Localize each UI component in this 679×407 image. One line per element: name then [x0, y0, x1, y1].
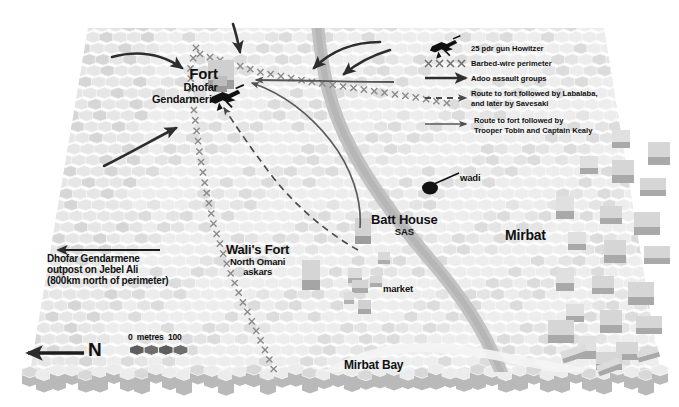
building	[644, 246, 670, 264]
building	[628, 282, 654, 305]
building	[592, 276, 614, 294]
building	[358, 300, 371, 314]
legend-label-tobin-route: Route to fort followed by	[474, 117, 563, 126]
legend-label-labalaba-route: Route to fort followed by Labalaba,	[471, 90, 598, 99]
label-market: market	[383, 284, 413, 294]
building	[344, 292, 354, 304]
building	[612, 160, 634, 183]
hex-terrain	[6, 20, 679, 389]
building	[355, 218, 371, 244]
building	[612, 130, 630, 148]
building	[604, 240, 626, 263]
building	[634, 212, 660, 235]
building	[302, 260, 320, 290]
legend-label-adoo-assault: Adoo assault groups	[471, 75, 547, 84]
label-batt-house: Batt House SAS	[371, 213, 438, 237]
legend-label-barbed-wire: Barbed-wire perimeter	[471, 60, 552, 69]
building	[600, 206, 622, 224]
building	[556, 196, 574, 219]
legend-label-tobin-route-2: Trooper Tobin and Captain Kealy	[474, 127, 592, 136]
label-mirbat-bay: Mirbat Bay	[344, 359, 403, 372]
building	[640, 178, 666, 196]
legend-label-howitzer: 25 pdr gun Howitzer	[471, 45, 544, 54]
label-fort: Fort Dhofar Gendarmerie	[152, 66, 218, 106]
building	[568, 232, 586, 250]
label-walis-fort: Wali's Fort North Omani askars	[226, 243, 289, 278]
compass-north-label: N	[88, 340, 102, 361]
building	[566, 304, 584, 322]
label-mirbat: Mirbat	[505, 228, 546, 243]
label-dhofar-gendarmerie-outpost: Dhofar Gendarmene outpost on Jebel Ali (…	[47, 254, 169, 286]
building	[548, 320, 574, 343]
building	[580, 156, 598, 174]
building	[636, 316, 662, 334]
building	[378, 252, 390, 264]
building	[370, 276, 382, 287]
building	[600, 310, 622, 333]
building	[352, 280, 368, 293]
scale-bar-label: 0 metres 100	[128, 333, 181, 342]
building	[648, 142, 670, 165]
label-wadi: wadi	[460, 173, 480, 183]
building	[556, 268, 574, 291]
map-illustration	[0, 0, 679, 407]
map-canvas: Fort Dhofar Gendarmerie Dhofar Gendarmen…	[0, 0, 679, 407]
legend-label-labalaba-route-2: and later by Savesaki	[471, 100, 548, 109]
